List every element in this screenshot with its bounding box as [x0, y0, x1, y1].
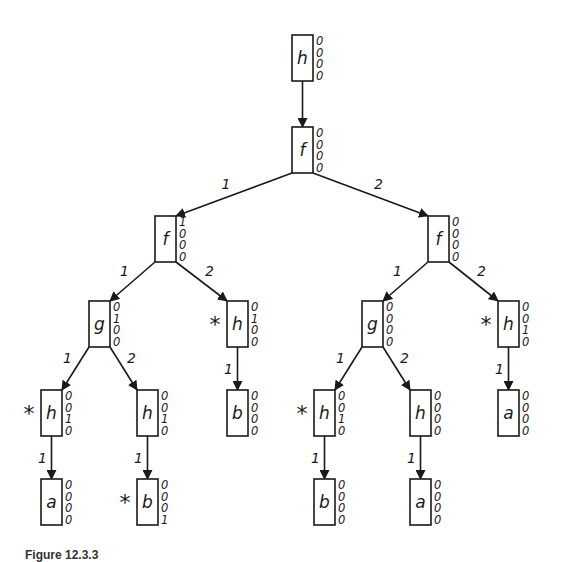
tree-node: h0010*	[24, 389, 73, 438]
nodes-layer: h0000f0000f1000f0000g0100h0100*g0000h001…	[24, 34, 530, 527]
tree-node: b0001*	[120, 478, 169, 527]
edge-label: 1	[134, 450, 143, 466]
node-bit: 0	[386, 335, 393, 349]
node-bit: 0	[316, 69, 323, 83]
tree-node: b0000	[227, 389, 258, 438]
edge-label: 1	[336, 350, 345, 366]
tree-node: h0000	[292, 34, 323, 83]
node-bit: 0	[522, 335, 529, 349]
edge-arrow	[110, 262, 155, 301]
edge-label: 1	[393, 263, 402, 279]
tree-node: f0000	[292, 126, 323, 175]
node-label: h	[503, 314, 514, 334]
node-label: h	[142, 403, 153, 423]
tree-node: h0000	[410, 389, 441, 438]
tree-node: h0010*	[481, 300, 530, 349]
tree-node: h0010*	[297, 389, 346, 438]
asterisk-mark-icon: *	[297, 401, 308, 426]
figure-caption: Figure 12.3.3	[25, 548, 98, 562]
node-label: g	[94, 314, 105, 334]
node-label: a	[503, 403, 513, 423]
edge-label: 2	[400, 350, 409, 366]
edge-label: 1	[407, 450, 416, 466]
node-bit: 0	[65, 513, 72, 527]
node-bit: 0	[338, 424, 345, 438]
node-bit: 0	[179, 250, 186, 264]
node-bit: 0	[522, 424, 529, 438]
edge-label: 2	[477, 263, 486, 279]
node-bit: 0	[434, 424, 441, 438]
node-bit: 0	[113, 335, 120, 349]
node-label: h	[232, 314, 243, 334]
node-label: a	[415, 492, 425, 512]
edge-label: 1	[222, 176, 231, 192]
node-bit: 0	[452, 250, 459, 264]
tree-node: h0100*	[210, 300, 259, 349]
edge-arrow	[176, 262, 227, 301]
asterisk-mark-icon: *	[481, 312, 492, 337]
edge-label: 1	[63, 350, 72, 366]
node-bit: 0	[251, 335, 258, 349]
node-label: b	[319, 492, 330, 512]
tree-node: f0000	[428, 215, 459, 264]
edge-label: 1	[495, 361, 504, 377]
tree-node: a0000	[410, 478, 441, 527]
node-label: b	[142, 492, 153, 512]
node-label: b	[232, 403, 243, 423]
node-label: h	[46, 403, 57, 423]
node-bit: 0	[316, 161, 323, 175]
node-label: h	[415, 403, 426, 423]
tree-node: f1000	[155, 215, 186, 264]
node-bit: 1	[161, 513, 168, 527]
edge-arrow	[449, 262, 498, 301]
edge-arrow	[176, 173, 292, 216]
edge-label: 1	[311, 450, 320, 466]
edge-label: 1	[38, 450, 47, 466]
edge-label: 2	[127, 350, 136, 366]
node-bit: 0	[338, 513, 345, 527]
node-bit: 0	[251, 424, 258, 438]
node-label: g	[367, 314, 378, 334]
asterisk-mark-icon: *	[24, 401, 35, 426]
edge-label: 2	[374, 176, 383, 192]
tree-node: g0100	[89, 300, 120, 349]
tree-node: a0000	[41, 478, 72, 527]
tree-node: h0010	[137, 389, 168, 438]
asterisk-mark-icon: *	[120, 490, 131, 515]
node-bit: 0	[65, 424, 72, 438]
node-label: h	[319, 403, 330, 423]
tree-node: g0000	[362, 300, 393, 349]
node-bit: 0	[434, 513, 441, 527]
node-label: h	[297, 48, 308, 68]
edge-arrow	[383, 262, 428, 301]
edge-label: 1	[120, 263, 129, 279]
edge-arrow	[313, 173, 428, 216]
asterisk-mark-icon: *	[210, 312, 221, 337]
node-bit: 0	[161, 424, 168, 438]
node-label: a	[46, 492, 56, 512]
tree-node: a0000	[498, 389, 529, 438]
tree-node: b0000	[314, 478, 345, 527]
edge-label: 2	[205, 263, 214, 279]
edge-label: 1	[224, 361, 233, 377]
